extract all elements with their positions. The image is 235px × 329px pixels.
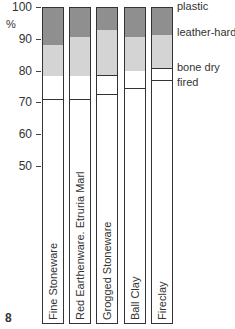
segment-leather-hard	[43, 45, 63, 78]
y-tick-label: 80	[8, 64, 32, 78]
segment-leather-hard	[125, 37, 145, 72]
segment-leather-hard	[70, 37, 90, 77]
y-tick-mark	[36, 102, 41, 103]
segment-leather-hard	[97, 30, 117, 76]
bar-fireclay	[151, 7, 173, 324]
y-tick-label: 50	[8, 159, 32, 173]
segment-bone-dry	[97, 76, 117, 95]
y-tick-mark	[36, 39, 41, 40]
segment-bone-dry	[125, 71, 145, 88]
y-tick-label: 70	[8, 95, 32, 109]
segment-bone-dry	[70, 76, 90, 99]
y-tick-label: 100	[8, 0, 32, 14]
stage-label-plastic: plastic	[177, 0, 208, 12]
stage-label-leather-hard: leather-hard	[177, 26, 235, 38]
bar-label: Grogged Stoneware	[101, 222, 113, 320]
y-tick-mark	[36, 71, 41, 72]
bar-label: Red Earthenware. Etruria Marl	[74, 171, 86, 320]
segment-plastic	[70, 7, 90, 38]
segment-plastic	[97, 7, 117, 31]
y-tick-label: 60	[8, 127, 32, 141]
segment-plastic	[43, 7, 63, 46]
segment-plastic	[152, 7, 172, 36]
bar-label: Fine Stoneware	[47, 243, 59, 320]
y-tick-mark	[36, 134, 41, 135]
segment-bone-dry	[43, 76, 63, 99]
stage-label-bone-dry: bone dry	[177, 61, 220, 73]
y-tick-label: 90	[8, 32, 32, 46]
y-tick-mark	[36, 166, 41, 167]
segment-leather-hard	[152, 35, 172, 69]
segment-bone-dry	[152, 69, 172, 81]
bar-label: Fireclay	[156, 281, 168, 320]
y-axis-unit: %	[6, 18, 16, 30]
segment-plastic	[125, 7, 145, 38]
stage-label-fired: fired	[177, 76, 198, 88]
y-tick-mark	[36, 7, 41, 8]
bar-label: Ball Clay	[129, 277, 141, 320]
shrinkage-chart: % 1009080706050 Fine StonewareRed Earthe…	[0, 0, 235, 329]
figure-number: 8	[5, 311, 12, 325]
